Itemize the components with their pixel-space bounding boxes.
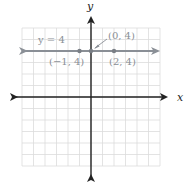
point-neg1-4: [77, 49, 81, 53]
point-label-neg1-4: (−1, 4): [49, 56, 84, 67]
line-label: y = 4: [37, 34, 65, 45]
coordinate-graph: x y y = 4 (0, 4) (−1, 4) (2, 4): [0, 0, 189, 183]
point-0-4: [89, 49, 93, 53]
x-axis-label: x: [177, 91, 184, 104]
point-label-0-4: (0, 4): [108, 30, 135, 41]
y-axis-label: y: [86, 0, 94, 13]
point-label-2-4: (2, 4): [109, 56, 136, 67]
point-2-4: [112, 49, 116, 53]
